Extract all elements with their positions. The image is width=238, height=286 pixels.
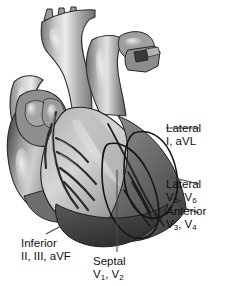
lead-sep-1: , V — [178, 191, 192, 203]
rpa-highlight — [125, 38, 143, 47]
lead-sub-5: 5 — [174, 196, 178, 205]
lead-sub-4: 4 — [192, 223, 196, 232]
lead-sub-3: 3 — [174, 223, 178, 232]
lead-v-prefix-3: V — [93, 268, 101, 280]
lead-sub-6: 6 — [192, 196, 196, 205]
pulmonary-vein-opening — [134, 50, 148, 62]
label-septal-leads: V1, V2 — [93, 268, 126, 283]
label-lateral-high: Lateral I, aVL — [166, 122, 201, 147]
lead-sub-1: 1 — [101, 273, 105, 282]
label-lateral-low-leads: V5, V6 — [166, 191, 201, 206]
label-septal: Septal V1, V2 — [93, 255, 126, 282]
label-lateral-low-region: Lateral — [166, 178, 201, 191]
appendage-highlight-1 — [27, 103, 37, 117]
heart-body-group — [7, 90, 186, 247]
heart-ecg-territory-figure: Lateral I, aVL Lateral V5, V6 Anterior V… — [0, 0, 238, 286]
label-anterior: Anterior V3, V4 — [166, 205, 206, 232]
lead-v-prefix-2: V — [166, 218, 174, 230]
lead-sub-2: 2 — [119, 273, 123, 282]
label-inferior: Inferior II, III, aVF — [21, 237, 71, 262]
lead-sep-2: , V — [178, 218, 192, 230]
label-lateral-low: Lateral V5, V6 — [166, 178, 201, 205]
label-lateral-high-region: Lateral — [166, 122, 201, 135]
lead-sep-3: , V — [105, 268, 119, 280]
label-anterior-region: Anterior — [166, 205, 206, 218]
label-lateral-high-leads: I, aVL — [166, 135, 201, 148]
label-inferior-region: Inferior — [21, 237, 71, 250]
lead-v-prefix-1: V — [166, 191, 174, 203]
label-septal-region: Septal — [93, 255, 126, 268]
label-anterior-leads: V3, V4 — [166, 218, 206, 233]
label-inferior-leads: II, III, aVF — [21, 250, 71, 263]
